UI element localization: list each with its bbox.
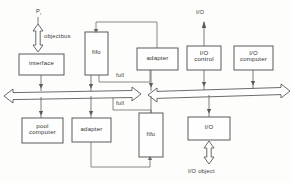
- box-label-interface: interface: [19, 60, 64, 66]
- box-label-adapter-top: adapter: [137, 55, 178, 61]
- objectbus-right: [148, 84, 290, 102]
- objectbus-label: objectbus: [44, 33, 71, 39]
- box-label-io: I/O: [188, 124, 230, 130]
- box-label-fifo-top: fifo: [85, 49, 108, 55]
- pi-subscript: i: [40, 11, 41, 16]
- io-object-label: I/O object: [188, 168, 215, 174]
- pi-label: Pi: [36, 8, 41, 17]
- box-label-io-control: I/O control: [187, 50, 221, 63]
- objectbus-vertical-double-arrow: [33, 17, 43, 52]
- full-label-lower: full: [116, 100, 124, 106]
- diagram-canvas: interface fifo adapter I/O control I/O c…: [0, 0, 293, 182]
- io-object-double-arrow: [204, 141, 214, 164]
- diagram-vector-layer: [0, 0, 293, 182]
- pool-computer-line2: computer: [22, 129, 63, 135]
- box-label-adapter-bottom: adapter: [72, 126, 111, 132]
- full-label-upper: full: [116, 72, 124, 78]
- io-computer-line2: computer: [234, 56, 273, 62]
- io-control-line2: control: [187, 56, 221, 62]
- io-top-label: I/O: [196, 9, 204, 15]
- box-label-pool-computer: pool computer: [22, 123, 63, 136]
- box-label-fifo-bottom: fifo: [139, 131, 163, 137]
- box-label-io-computer: I/O computer: [234, 50, 273, 63]
